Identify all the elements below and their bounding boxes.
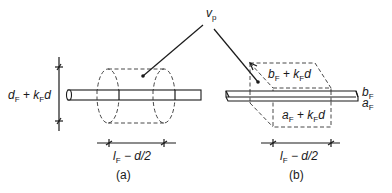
panel-a: dF + kFd lF − d/2 (a) — [8, 57, 201, 182]
flat-fiber-bar — [226, 91, 358, 101]
caption-a: (a) — [116, 168, 131, 182]
height-label-a: dF + kFd — [8, 88, 51, 104]
length-label-b: lF − d/2 — [280, 149, 318, 165]
fiber-zone-diagram: dF + kFd lF − d/2 (a) — [0, 0, 392, 193]
vp-callout: vp — [143, 6, 258, 82]
width-label-b: bF + kFd — [268, 67, 311, 83]
vp-label: vp — [206, 6, 217, 22]
height-dimension-a — [55, 57, 63, 131]
caption-b: (b) — [289, 168, 304, 182]
leader-dot-b — [256, 80, 260, 84]
length-label-a: lF − d/2 — [113, 149, 151, 165]
panel-b: bF + kFd aF + kFd bF aF lF − d/2 (b) — [226, 63, 374, 182]
length-dimension-a — [97, 139, 176, 147]
leader-line-b — [214, 29, 258, 82]
round-fiber-bar — [67, 90, 202, 100]
thickness-label-b: aF + kFd — [282, 108, 325, 124]
length-dimension-b — [261, 139, 340, 147]
leader-line-a — [143, 25, 203, 76]
